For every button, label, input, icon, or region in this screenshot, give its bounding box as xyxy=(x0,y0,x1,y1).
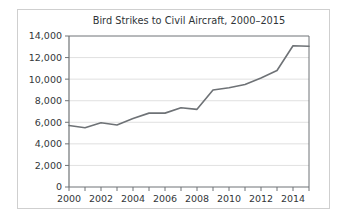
x-tick-label: 2006 xyxy=(153,193,177,204)
data-line-bird-strikes xyxy=(69,46,309,128)
y-tick-label: 12,000 xyxy=(29,52,62,63)
x-tick-label: 2012 xyxy=(249,193,273,204)
y-tick-label: 8,000 xyxy=(35,95,62,106)
x-tick-label: 2008 xyxy=(185,193,209,204)
x-tick-label: 2002 xyxy=(89,193,113,204)
line-chart: Bird Strikes to Civil Aircraft, 2000–201… xyxy=(18,10,329,208)
y-tick-label: 2,000 xyxy=(35,160,62,171)
chart-frame: Bird Strikes to Civil Aircraft, 2000–201… xyxy=(17,9,330,209)
x-tick-label: 2014 xyxy=(281,193,305,204)
y-tick-label: 0 xyxy=(56,181,62,192)
y-tick-label: 10,000 xyxy=(29,74,62,85)
y-tick-label: 6,000 xyxy=(35,117,62,128)
y-tick-label: 4,000 xyxy=(35,138,62,149)
x-tick-label: 2000 xyxy=(57,193,81,204)
chart-title: Bird Strikes to Civil Aircraft, 2000–201… xyxy=(93,15,286,26)
figure-container: Bird Strikes to Civil Aircraft, 2000–201… xyxy=(0,0,347,221)
x-tick-label: 2004 xyxy=(121,193,145,204)
x-tick-label: 2010 xyxy=(217,193,241,204)
y-tick-label: 14,000 xyxy=(29,30,62,41)
x-axis-ticks: 20002002200420062008201020122014 xyxy=(57,187,309,204)
